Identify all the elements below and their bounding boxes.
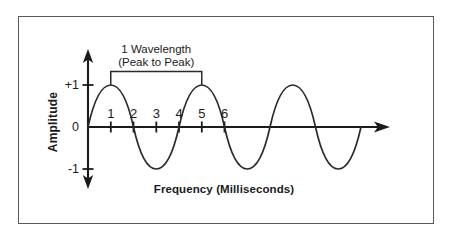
x-axis-title: Frequency (Milliseconds) (154, 184, 294, 196)
y-tick-label-plus1: +1 (65, 79, 79, 92)
wavelength-annotation-line2: (Peak to Peak) (118, 57, 194, 69)
y-axis (83, 49, 94, 189)
x-tick-label-5: 5 (198, 107, 205, 120)
wave-diagram-figure: +1 0 -1 Amplitude 1 2 3 4 5 6 1 Waveleng… (0, 0, 449, 239)
x-tick-label-3: 3 (153, 107, 160, 120)
wavelength-bracket (111, 72, 202, 86)
y-tick-label-zero: 0 (72, 121, 79, 134)
x-tick-label-1: 1 (107, 107, 114, 120)
x-tick-label-6: 6 (221, 107, 228, 120)
x-tick-label-2: 2 (130, 107, 137, 120)
x-tick-label-4: 4 (175, 107, 182, 120)
y-tick-label-minus1: -1 (68, 163, 79, 176)
y-axis-title: Amplitude (47, 92, 59, 152)
wavelength-annotation-line1: 1 Wavelength (121, 44, 191, 56)
